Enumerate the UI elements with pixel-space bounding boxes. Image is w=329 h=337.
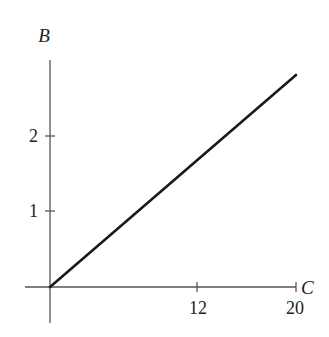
x-tick-label-20: 20 xyxy=(286,298,304,318)
y-tick-label-2: 2 xyxy=(29,126,38,146)
y-tick-label-1: 1 xyxy=(29,201,38,221)
x-tick-label-12: 12 xyxy=(189,298,207,318)
y-axis-label: B xyxy=(38,25,50,46)
x-axis-label: C xyxy=(301,277,314,298)
data-line xyxy=(50,75,296,287)
chart: B C 2 1 12 20 xyxy=(0,0,329,337)
